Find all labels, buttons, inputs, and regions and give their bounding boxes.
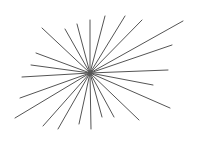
ray-line [90, 73, 102, 117]
ray-line [90, 21, 183, 73]
ray-line [90, 73, 139, 120]
ray-line [90, 73, 170, 108]
ray-line [77, 24, 90, 73]
ray-line [42, 28, 90, 73]
starburst-figure [0, 0, 197, 145]
ray-line [90, 73, 153, 85]
ray-line [90, 16, 125, 73]
ray-line [90, 20, 142, 73]
ray-line [90, 73, 114, 117]
ray-line [58, 73, 90, 129]
ray-line [90, 73, 91, 129]
ray-line [90, 16, 105, 73]
ray-line [36, 53, 90, 73]
starburst-lines [0, 0, 197, 145]
ray-line [90, 45, 172, 73]
ray-line [31, 65, 90, 73]
ray-line [79, 73, 90, 124]
ray-line [90, 70, 168, 73]
ray-line [65, 29, 90, 73]
